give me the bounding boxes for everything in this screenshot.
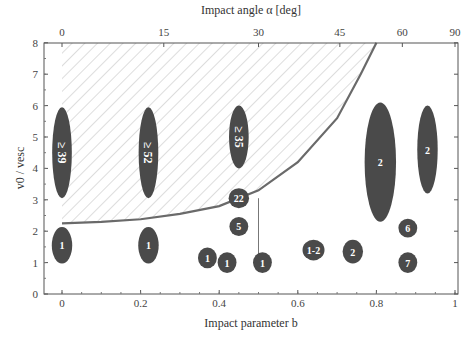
x-tick-labels: 00.20.40.60.81 [59,297,458,309]
svg-text:1: 1 [260,258,265,269]
svg-text:45: 45 [334,26,346,38]
svg-text:≥ 35: ≥ 35 [232,126,246,148]
data-marker: 6 [398,219,417,238]
svg-text:15: 15 [158,26,170,38]
hatched-region [62,43,376,224]
svg-text:2: 2 [378,157,383,168]
svg-text:2: 2 [425,145,430,156]
data-marker: ≥ 35 [229,106,249,169]
svg-text:1-2: 1-2 [307,245,320,256]
data-marker: 22 [229,188,249,208]
data-marker: 2 [365,102,396,221]
top-tick-labels: 01530456090 [59,26,461,38]
svg-text:0: 0 [33,288,39,300]
data-marker: 1 [218,252,237,273]
svg-text:30: 30 [253,26,265,38]
svg-text:2: 2 [33,225,39,237]
svg-text:6: 6 [33,100,39,112]
svg-text:1: 1 [33,257,39,269]
data-marker: 1 [198,248,217,269]
y-axis-title: v0 / vesc [13,147,27,190]
data-marker: 7 [398,252,417,273]
x-axis-title: Impact parameter b [204,316,297,330]
svg-text:1: 1 [452,297,458,309]
svg-text:1: 1 [60,240,65,251]
data-marker: 2 [343,240,363,264]
svg-text:60: 60 [397,26,409,38]
svg-text:5: 5 [236,221,241,232]
svg-text:2: 2 [350,247,355,258]
svg-text:7: 7 [405,258,410,269]
data-marker: 1 [138,227,158,263]
svg-text:6: 6 [405,223,410,234]
svg-text:1: 1 [225,258,230,269]
svg-text:≥ 52: ≥ 52 [141,142,155,164]
data-marker: 2 [417,106,437,194]
svg-text:0.4: 0.4 [212,297,226,309]
scatter-chart: 00.20.40.60.81 012345678 01530456090 ≥ 3… [0,0,475,342]
svg-text:5: 5 [33,131,39,143]
data-marker: ≥ 39 [52,107,72,198]
svg-text:1: 1 [146,240,151,251]
svg-text:0.2: 0.2 [134,297,148,309]
top-axis-title: Impact angle α [deg] [201,3,301,17]
data-marker: 1 [253,252,272,273]
svg-text:0: 0 [59,26,65,38]
y-tick-labels: 012345678 [33,37,39,300]
data-marker: 5 [229,217,248,236]
data-marker: 1 [52,227,72,263]
svg-text:7: 7 [33,68,39,80]
svg-text:0.8: 0.8 [370,297,384,309]
svg-text:22: 22 [234,193,244,204]
svg-text:8: 8 [33,37,39,49]
svg-text:90: 90 [450,26,462,38]
data-marker: 1-2 [303,240,325,261]
svg-text:0.6: 0.6 [291,297,305,309]
svg-text:4: 4 [33,162,39,174]
svg-text:3: 3 [33,194,39,206]
svg-text:≥ 39: ≥ 39 [55,142,69,164]
svg-text:1: 1 [205,253,210,264]
svg-text:0: 0 [59,297,65,309]
data-marker: ≥ 52 [139,107,159,198]
